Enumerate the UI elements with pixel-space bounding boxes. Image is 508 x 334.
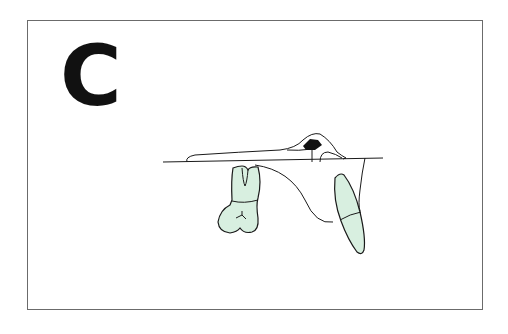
incisor-support-line [359,158,365,211]
soft-tissue-curve [255,165,333,222]
reference-line [163,158,383,162]
palate-outline [187,134,346,162]
landmark-marker-icon [303,139,322,150]
molar-tooth [218,166,260,233]
dental-diagram [0,0,508,334]
